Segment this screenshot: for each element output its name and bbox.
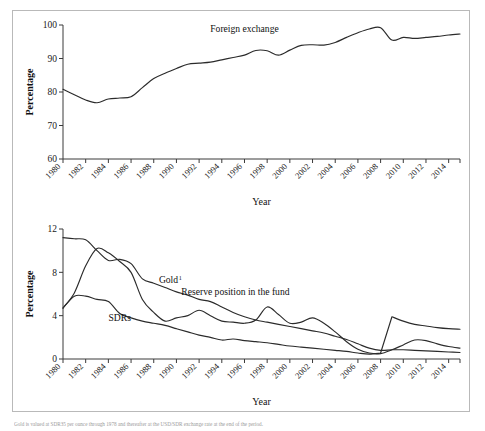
x-tick-label: 2004 <box>315 361 335 381</box>
x-tick-label: 2002 <box>293 161 312 180</box>
series-label: SDRs <box>109 312 132 323</box>
x-axis-title: Year <box>252 196 271 207</box>
y-tick-label: 90 <box>48 54 58 64</box>
chart-panel-top: 6070809010019801982198419861988199019921… <box>13 11 471 211</box>
x-tick-label: 1982 <box>66 161 85 180</box>
x-tick-label: 1994 <box>202 361 222 381</box>
x-tick-label: 1996 <box>225 161 245 181</box>
y-tick-label: 80 <box>48 87 58 97</box>
x-tick-label: 1984 <box>89 361 109 381</box>
x-tick-label: 2006 <box>338 361 358 381</box>
x-tick-label: 1998 <box>247 361 266 380</box>
x-tick-label: 1984 <box>89 161 109 181</box>
x-tick-label: 1986 <box>111 361 131 381</box>
x-tick-label: 2014 <box>429 361 449 381</box>
y-tick-label: 12 <box>48 224 58 234</box>
y-tick-label: 8 <box>52 268 57 278</box>
y-tick-label: 70 <box>48 121 58 131</box>
x-tick-label: 2006 <box>338 161 358 181</box>
x-tick-label: 1980 <box>43 161 62 180</box>
figure-frame: 6070809010019801982198419861988199019921… <box>12 10 470 412</box>
x-axis-title: Year <box>252 396 271 407</box>
x-tick-label: 2004 <box>315 161 335 181</box>
x-tick-label: 1990 <box>157 161 176 180</box>
series-line-foreign-exchange <box>63 27 460 103</box>
x-tick-label: 2000 <box>270 361 289 380</box>
x-tick-label: 1992 <box>179 361 198 380</box>
footnote-marker: 1 <box>179 274 182 281</box>
x-tick-label: 2002 <box>293 361 312 380</box>
y-tick-label: 4 <box>52 311 57 321</box>
foreign-exchange-chart: 6070809010019801982198419861988199019921… <box>13 11 471 211</box>
x-tick-label: 1982 <box>66 361 85 380</box>
y-axis-title: Percentage <box>24 270 35 318</box>
chart-panel-bottom: 0481219801982198419861988199019921994199… <box>13 211 471 412</box>
x-tick-label: 2010 <box>383 361 402 380</box>
x-tick-label: 1986 <box>111 161 131 181</box>
y-axis-title: Percentage <box>24 68 35 116</box>
x-tick-label: 1998 <box>247 161 266 180</box>
reserve-composition-chart: 0481219801982198419861988199019921994199… <box>13 211 471 412</box>
x-tick-label: 1988 <box>134 161 153 180</box>
series-label: Gold <box>159 274 178 285</box>
series-line-reserve-position-in-the-fund <box>63 248 460 354</box>
series-label: Foreign exchange <box>210 23 278 34</box>
x-tick-label: 2014 <box>429 161 449 181</box>
x-tick-label: 1988 <box>134 361 153 380</box>
x-tick-label: 1990 <box>157 361 176 380</box>
x-tick-label: 2008 <box>361 361 380 380</box>
x-tick-label: 2008 <box>361 161 380 180</box>
x-tick-label: 1980 <box>43 361 62 380</box>
series-label: Reserve position in the fund <box>181 286 289 297</box>
x-tick-label: 2012 <box>406 361 425 380</box>
series-line-sdrs <box>63 295 460 354</box>
x-tick-label: 1992 <box>179 161 198 180</box>
x-tick-label: 1994 <box>202 161 222 181</box>
x-tick-label: 2000 <box>270 161 289 180</box>
x-tick-label: 2012 <box>406 161 425 180</box>
x-tick-label: 1996 <box>225 361 245 381</box>
y-tick-label: 100 <box>43 20 58 30</box>
figure-footnote: Gold is valued at SDR35 per ounce throug… <box>14 418 482 430</box>
x-tick-label: 2010 <box>383 161 402 180</box>
